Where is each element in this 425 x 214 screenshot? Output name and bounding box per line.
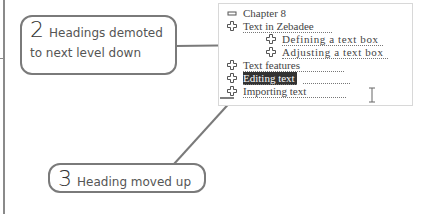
plus-icon[interactable] [227,59,237,71]
outline-item-label: Importing text [243,85,346,98]
callout-text: Heading moved up [77,175,191,189]
outline-item-label-selected: Editing text [243,72,297,85]
callout-headings-demoted: 2 Headings demoted to next level down [20,15,177,75]
plus-icon[interactable] [227,20,237,32]
outline-item-label: Chapter 8 [243,7,286,19]
plus-icon[interactable] [227,72,237,84]
callout-number: 3 [58,166,72,191]
outline-item-label: Text features [243,59,344,72]
callout-number: 2 [30,17,44,42]
callout-heading-moved-up: 3 Heading moved up [48,163,206,193]
plus-icon[interactable] [266,46,276,58]
outline-item-leader [303,72,350,84]
callout-3-connector [170,96,240,166]
callout-text: Headings demoted [49,26,163,40]
outline-item-label: Text in Zebadee [243,20,332,33]
left-margin-tick [0,58,5,59]
minus-icon[interactable] [227,7,237,19]
plus-icon[interactable] [266,33,276,45]
text-cursor-icon [368,87,376,103]
outline-item-label: Adjusting a text box [282,46,388,59]
outline-item-label: Defining a text box [282,33,383,46]
callout-text-line2: to next level down [30,43,167,63]
left-margin-rule [3,0,5,214]
insertion-marker [220,96,236,100]
